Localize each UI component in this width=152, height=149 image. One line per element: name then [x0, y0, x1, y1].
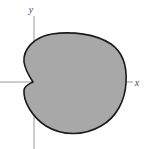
cardioid-figure: x y — [0, 0, 152, 149]
cardioid-shaded-region-path — [24, 33, 126, 134]
cardioid-svg-canvas: x y — [0, 0, 152, 149]
y-axis-label: y — [28, 4, 34, 15]
x-axis-label: x — [134, 77, 140, 88]
